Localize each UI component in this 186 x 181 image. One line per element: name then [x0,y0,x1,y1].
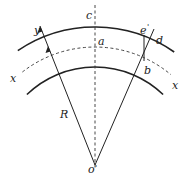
label-b: b [144,64,151,77]
label-R: R [59,108,68,121]
radius-line-right [95,29,154,165]
label-c: c [86,9,92,22]
label-y: y [33,24,41,37]
label-e-prime-mark: ' [147,22,149,31]
label-d: d [156,34,163,47]
label-x-left: x [10,72,17,85]
label-x-right: x [172,79,179,92]
label-o-prime-mark: ' [95,163,97,172]
label-e: e [140,24,147,37]
curved-beam-diagram: c a e ' d b y x x R o ' [0,0,186,181]
label-a: a [98,35,105,48]
label-o: o [88,163,95,176]
